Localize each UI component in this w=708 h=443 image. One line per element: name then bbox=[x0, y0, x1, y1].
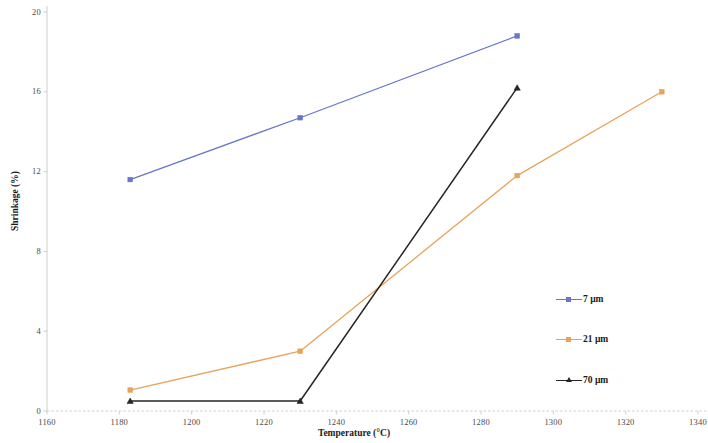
x-tick-label: 1280 bbox=[461, 417, 501, 427]
x-tick-label: 1200 bbox=[172, 417, 212, 427]
legend-swatch-21um bbox=[556, 335, 582, 344]
legend-swatch-70um bbox=[556, 376, 582, 385]
x-tick-label: 1320 bbox=[606, 417, 646, 427]
chart-figure: 048121620 116011801200122012401260128013… bbox=[0, 0, 708, 443]
y-tick-label: 16 bbox=[13, 86, 41, 96]
legend-label-7um: 7 µm bbox=[583, 294, 604, 304]
data-point bbox=[660, 90, 665, 95]
y-tick-label: 20 bbox=[13, 7, 41, 17]
legend-label-21um: 21 µm bbox=[583, 334, 608, 344]
data-point bbox=[298, 349, 303, 354]
legend-marker-70um bbox=[566, 377, 572, 382]
x-tick-label: 1180 bbox=[99, 417, 139, 427]
legend-item-21um[interactable]: 21 µm bbox=[556, 332, 608, 346]
series-group bbox=[127, 34, 664, 404]
x-tick-label: 1300 bbox=[533, 417, 573, 427]
x-axis-title: Temperature (°C) bbox=[0, 428, 708, 438]
legend-marker-7um bbox=[566, 297, 571, 302]
x-tick-label: 1240 bbox=[316, 417, 356, 427]
x-tick-label: 1220 bbox=[244, 417, 284, 427]
data-point bbox=[128, 388, 133, 393]
data-point bbox=[298, 115, 303, 120]
y-axis-title: Shrinkage (%) bbox=[10, 141, 20, 261]
legend-marker-21um bbox=[566, 337, 571, 342]
legend-item-7um[interactable]: 7 µm bbox=[556, 292, 604, 306]
x-tick-label: 1160 bbox=[27, 417, 67, 427]
data-point bbox=[514, 85, 520, 90]
data-point bbox=[128, 177, 133, 182]
data-point bbox=[515, 173, 520, 178]
x-tick-label: 1260 bbox=[389, 417, 429, 427]
legend-swatch-7um bbox=[556, 295, 582, 304]
y-tick-label: 0 bbox=[13, 406, 41, 416]
y-tick-label: 4 bbox=[13, 326, 41, 336]
legend-label-70um: 70 µm bbox=[583, 375, 608, 385]
series-line-0 bbox=[130, 36, 517, 180]
data-point bbox=[515, 34, 520, 39]
x-tick-label: 1340 bbox=[678, 417, 708, 427]
series-line-2 bbox=[130, 88, 517, 401]
legend-item-70um[interactable]: 70 µm bbox=[556, 373, 608, 387]
axis-lines bbox=[44, 6, 707, 415]
